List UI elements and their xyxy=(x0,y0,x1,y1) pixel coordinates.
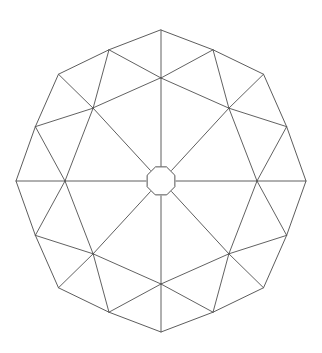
geodesic-dome-figure xyxy=(0,0,322,353)
